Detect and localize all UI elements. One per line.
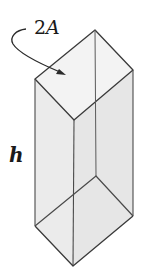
area-variable: A [46,16,60,38]
prism-diagram [0,0,143,280]
area-coefficient: 2 [34,16,46,38]
height-label: h [9,145,24,165]
area-label: 2A [34,18,60,37]
